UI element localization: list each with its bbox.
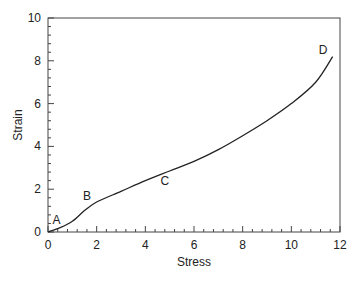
x-tick-label: 2 xyxy=(93,238,100,252)
y-axis-label: Strain xyxy=(11,109,25,140)
x-tick-label: 10 xyxy=(285,238,299,252)
stress-strain-chart: 024681012 0246810 ABCD Stress Strain xyxy=(0,0,356,305)
x-tick-label: 0 xyxy=(45,238,52,252)
y-tick-label: 6 xyxy=(34,97,41,111)
x-tick-label: 6 xyxy=(191,238,198,252)
annotation-c: C xyxy=(160,174,169,188)
x-tick-label: 12 xyxy=(333,238,347,252)
point-annotations: ABCD xyxy=(53,43,328,227)
y-tick-label: 8 xyxy=(34,54,41,68)
y-tick-label: 10 xyxy=(28,11,42,25)
data-line xyxy=(48,57,333,232)
x-axis-ticks: 024681012 xyxy=(45,226,347,252)
x-axis-label: Stress xyxy=(177,255,211,269)
y-tick-label: 0 xyxy=(34,225,41,239)
y-tick-label: 2 xyxy=(34,182,41,196)
x-tick-label: 4 xyxy=(142,238,149,252)
y-axis-ticks: 0246810 xyxy=(28,11,54,239)
annotation-a: A xyxy=(53,213,61,227)
x-tick-label: 8 xyxy=(239,238,246,252)
annotation-b: B xyxy=(83,189,91,203)
plot-frame xyxy=(48,18,340,232)
annotation-d: D xyxy=(319,43,328,57)
y-tick-label: 4 xyxy=(34,139,41,153)
